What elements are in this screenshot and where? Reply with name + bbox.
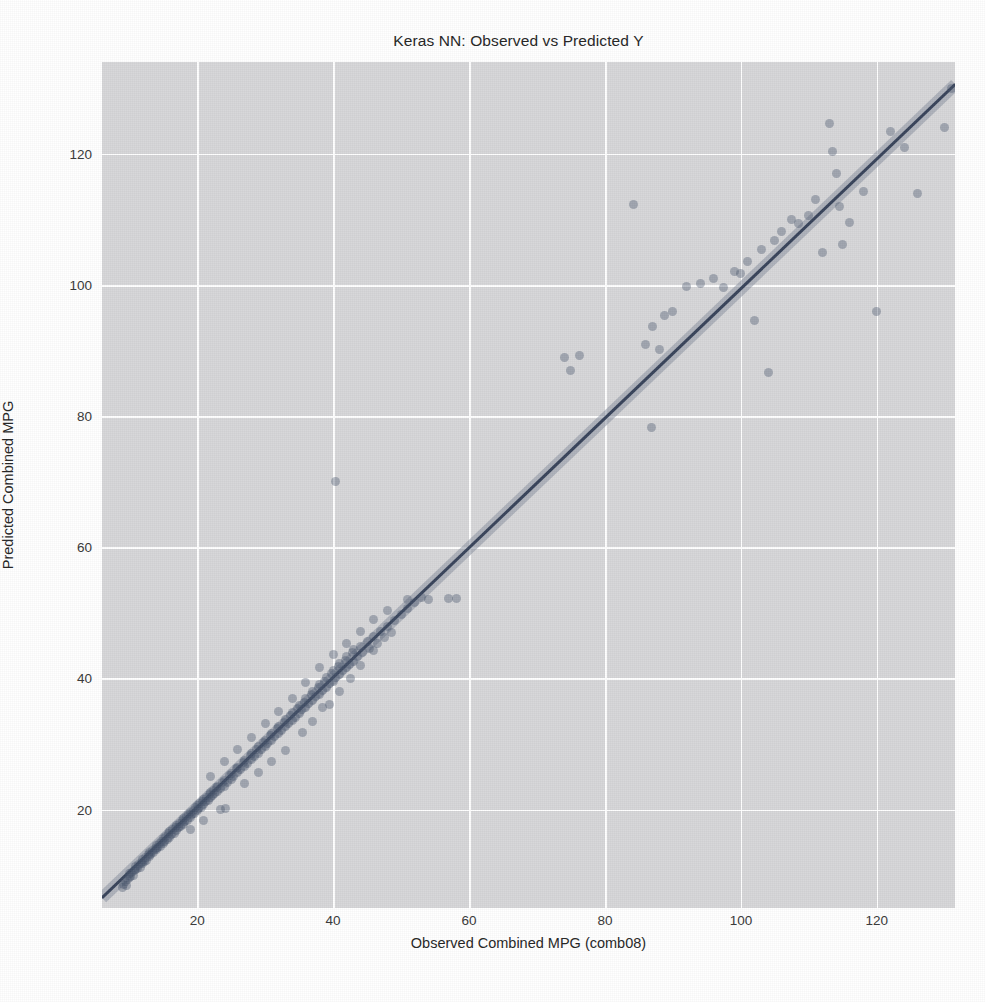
scatter-point	[199, 816, 208, 825]
gridline-vertical	[469, 62, 471, 908]
x-tick-label: 120	[866, 913, 889, 928]
gridline-vertical	[605, 62, 607, 908]
scatter-point	[261, 719, 270, 728]
chart-title: Keras NN: Observed vs Predicted Y	[0, 32, 985, 50]
scatter-point	[301, 678, 310, 687]
scatter-point	[288, 694, 297, 703]
y-axis-label: Predicted Combined MPG	[0, 62, 22, 908]
x-tick-label: 100	[730, 913, 753, 928]
scatter-point	[206, 772, 215, 781]
x-tick-label: 80	[597, 913, 612, 928]
y-tick-label: 60	[52, 540, 92, 555]
scatter-point	[913, 189, 922, 198]
scatter-point	[369, 615, 378, 624]
scatter-point	[648, 322, 657, 331]
scatter-point	[947, 84, 955, 93]
scatter-point	[709, 274, 718, 283]
scatter-point	[274, 707, 283, 716]
scatter-point	[655, 345, 664, 354]
scatter-point	[647, 423, 656, 432]
gridline-horizontal	[102, 416, 955, 418]
scatter-point	[641, 340, 650, 349]
scatter-point	[566, 366, 575, 375]
scatter-point	[696, 279, 705, 288]
scatter-point	[940, 123, 949, 132]
scatter-point	[560, 353, 569, 362]
scatter-point	[452, 594, 461, 603]
scatter-point	[859, 187, 868, 196]
y-axis-label-text: Predicted Combined MPG	[0, 401, 16, 569]
scatter-point	[750, 316, 759, 325]
scatter-point	[845, 218, 854, 227]
scatter-point	[838, 240, 847, 249]
scatter-point	[383, 606, 392, 615]
y-tick-label: 120	[52, 146, 92, 161]
plot-area	[102, 62, 955, 908]
x-tick-label: 20	[190, 913, 205, 928]
scatter-point	[811, 195, 820, 204]
scatter-point	[575, 351, 584, 360]
y-tick-label: 100	[52, 277, 92, 292]
scatter-point	[777, 227, 786, 236]
scatter-point	[828, 147, 837, 156]
scatter-point	[900, 143, 909, 152]
x-axis-label-text: Observed Combined MPG (comb08)	[411, 935, 646, 951]
scatter-point	[872, 307, 881, 316]
scatter-point	[342, 639, 351, 648]
scatter-point	[221, 804, 230, 813]
x-axis-label: Observed Combined MPG (comb08)	[102, 935, 955, 951]
gridline-horizontal	[102, 285, 955, 287]
scatter-point	[818, 248, 827, 257]
y-tick-label: 80	[52, 409, 92, 424]
scatter-point	[835, 202, 844, 211]
scatter-point	[315, 663, 324, 672]
scatter-point	[220, 757, 229, 766]
scatter-point	[764, 368, 773, 377]
scatter-point	[825, 119, 834, 128]
gridline-horizontal	[102, 547, 955, 549]
scatter-point	[281, 746, 290, 755]
gridline-vertical	[877, 62, 879, 908]
scatter-point	[308, 717, 317, 726]
scatter-point	[186, 825, 195, 834]
gridline-vertical	[741, 62, 743, 908]
scatter-point	[832, 169, 841, 178]
scatter-point	[387, 628, 396, 637]
gridline-horizontal	[102, 678, 955, 680]
y-tick-label: 20	[52, 802, 92, 817]
gridline-horizontal	[102, 154, 955, 156]
scatter-point	[629, 200, 638, 209]
scatter-point	[298, 728, 307, 737]
gridline-horizontal	[102, 810, 955, 812]
scatter-point	[886, 127, 895, 136]
scatter-point	[356, 627, 365, 636]
scatter-point	[331, 477, 340, 486]
scatter-point	[794, 219, 803, 228]
scatter-point	[424, 595, 433, 604]
scatter-point	[329, 650, 338, 659]
scatter-point	[369, 646, 378, 655]
scatter-point	[346, 674, 355, 683]
x-tick-label: 60	[462, 913, 477, 928]
scatter-point	[254, 768, 263, 777]
scatter-point	[668, 307, 677, 316]
figure-canvas: Keras NN: Observed vs Predicted Y 204060…	[0, 0, 985, 1002]
scatter-point	[757, 245, 766, 254]
scatter-point	[743, 257, 752, 266]
scatter-point	[247, 733, 256, 742]
scatter-point	[335, 687, 344, 696]
scatter-point	[719, 283, 728, 292]
gridline-vertical	[197, 62, 199, 908]
scatter-point	[682, 282, 691, 291]
scatter-point	[356, 661, 365, 670]
scatter-point	[267, 757, 276, 766]
chart-title-text: Keras NN: Observed vs Predicted Y	[393, 32, 643, 49]
x-tick-label: 40	[326, 913, 341, 928]
y-tick-label: 40	[52, 671, 92, 686]
scatter-point	[233, 745, 242, 754]
scatter-point	[240, 779, 249, 788]
